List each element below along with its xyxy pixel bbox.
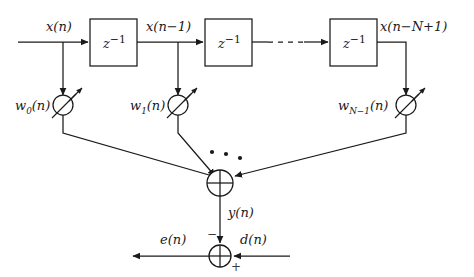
label-weight-n: wN−1(n) <box>338 99 388 115</box>
weight-n-base: w <box>338 98 349 113</box>
gainN-to-sum-line <box>235 115 406 176</box>
weight-0-base: w <box>15 98 26 113</box>
weight-0-arg: (n) <box>32 98 51 113</box>
summing-junction <box>207 170 233 196</box>
minus-sign: − <box>207 228 217 240</box>
tap-line-n <box>377 42 406 95</box>
weight-n-sub: N−1 <box>349 106 370 116</box>
filter-block-diagram: x(n) x(n−1) x(n−N+1) z−1 z−1 z−1 w0(n) w… <box>0 0 474 277</box>
gain-symbol-1 <box>167 88 197 118</box>
gain0-to-sum-line <box>63 115 216 177</box>
delay-2-exponent: −1 <box>225 33 241 46</box>
gain-symbol-n <box>395 88 425 118</box>
delay-block-2-label: z−1 <box>218 35 241 50</box>
delay-2-base: z <box>218 36 225 51</box>
gain-symbol-0 <box>52 88 82 118</box>
delay-1-base: z <box>103 36 110 51</box>
weight-1-base: w <box>130 98 141 113</box>
ellipsis-dots <box>210 150 242 160</box>
gain1-to-sum-line <box>178 115 215 176</box>
label-filter-output: y(n) <box>228 206 254 219</box>
delay-n-base: z <box>343 36 350 51</box>
label-tap-1: x(n−1) <box>146 20 191 33</box>
delay-block-n-label: z−1 <box>343 35 366 50</box>
label-weight-0: w0(n) <box>15 99 50 115</box>
label-tap-n: x(n−N+1) <box>380 20 447 33</box>
label-error: e(n) <box>160 233 186 246</box>
plus-sign: + <box>231 261 241 273</box>
label-weight-1: w1(n) <box>130 99 165 115</box>
weight-n-arg: (n) <box>370 98 389 113</box>
delay-1-exponent: −1 <box>110 33 126 46</box>
label-input: x(n) <box>46 20 72 33</box>
delay-block-1-label: z−1 <box>103 35 126 50</box>
label-desired: d(n) <box>240 233 267 246</box>
delay-n-exponent: −1 <box>350 33 366 46</box>
error-summing-junction <box>209 245 231 267</box>
weight-1-arg: (n) <box>147 98 166 113</box>
